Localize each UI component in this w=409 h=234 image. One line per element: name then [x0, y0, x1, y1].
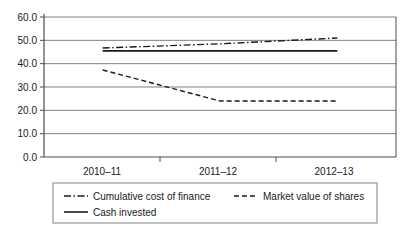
- chart-canvas: 60.0 50.0 40.0 30.0 20.0 10.0 0.0 2010–1…: [0, 0, 409, 234]
- legend-label-market-value-of-shares: Market value of shares: [263, 191, 364, 202]
- y-tick-label-30: 30.0: [18, 82, 38, 93]
- line-chart: 60.0 50.0 40.0 30.0 20.0 10.0 0.0 2010–1…: [0, 0, 409, 234]
- y-axis-labels: 60.0 50.0 40.0 30.0 20.0 10.0 0.0: [18, 12, 38, 163]
- legend-label-cumulative-cost-of-finance: Cumulative cost of finance: [93, 191, 211, 202]
- y-tick-label-10: 10.0: [18, 128, 38, 139]
- y-tick-label-50: 50.0: [18, 35, 38, 46]
- legend: Cumulative cost of finance Market value …: [53, 183, 377, 223]
- y-tick-label-20: 20.0: [18, 105, 38, 116]
- legend-label-cash-invested: Cash invested: [93, 207, 156, 218]
- x-tick-label-2: 2012–13: [315, 166, 354, 177]
- x-tick-marks: [160, 157, 276, 162]
- y-tick-label-0: 0.0: [23, 152, 37, 163]
- y-tick-label-40: 40.0: [18, 58, 38, 69]
- x-axis-labels: 2010–11 2011–12 2012–13: [83, 166, 354, 177]
- x-tick-label-0: 2010–11: [83, 166, 122, 177]
- y-tick-label-60: 60.0: [18, 12, 38, 23]
- x-tick-label-1: 2011–12: [199, 166, 238, 177]
